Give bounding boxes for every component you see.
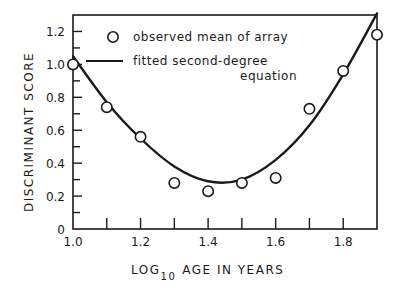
data-point-circle-icon: [203, 186, 213, 196]
data-point-circle-icon: [372, 30, 382, 40]
legend-marker-circle-icon: [108, 32, 118, 42]
x-tick-label: 1.4: [199, 235, 218, 249]
data-point-circle-icon: [304, 104, 314, 114]
legend-label-observed: observed mean of array: [133, 30, 288, 44]
data-point-circle-icon: [102, 102, 112, 112]
legend-label-fitted: fitted second-degree: [133, 54, 268, 68]
x-axis-ticks: 1.01.21.41.61.8: [63, 218, 352, 249]
x-tick-label: 1.6: [266, 235, 285, 249]
y-tick-label: 0.4: [46, 157, 65, 171]
x-tick-label: 1.8: [334, 235, 353, 249]
data-point-circle-icon: [237, 178, 247, 188]
data-point-circle-icon: [338, 66, 348, 76]
x-tick-label: 1.0: [63, 235, 82, 249]
x-axis-title-subscript: 10: [161, 271, 177, 282]
y-tick-label: 1.2: [46, 25, 65, 39]
y-tick-label: 0.6: [46, 124, 65, 138]
data-point-circle-icon: [169, 178, 179, 188]
y-tick-label: 0.8: [46, 91, 65, 105]
y-axis-title: DISCRIMINANT SCORE: [22, 52, 36, 212]
x-axis-title-suffix: AGE IN YEARS: [182, 263, 284, 277]
y-axis-ticks: 00.20.40.60.81.01.2: [46, 25, 82, 237]
y-tick-label: 1.0: [46, 58, 65, 72]
x-axis-title: LOG10AGE IN YEARS: [131, 263, 284, 282]
data-point-circle-icon: [270, 173, 280, 183]
plot-frame: [73, 15, 377, 229]
x-axis-title-prefix: LOG: [131, 263, 161, 277]
x-tick-label: 1.2: [131, 235, 150, 249]
chart: 00.20.40.60.81.01.2 1.01.21.41.61.8 obse…: [0, 0, 398, 297]
svg-text:LOG10AGE IN YEARS: LOG10AGE IN YEARS: [131, 263, 284, 282]
data-point-circle-icon: [135, 132, 145, 142]
legend-label-fitted-line2: equation: [240, 69, 297, 83]
y-tick-label: 0.2: [46, 190, 65, 204]
plot-border: [73, 15, 377, 229]
legend: observed mean of array fitted second-deg…: [86, 30, 297, 83]
data-point-circle-icon: [68, 59, 78, 69]
